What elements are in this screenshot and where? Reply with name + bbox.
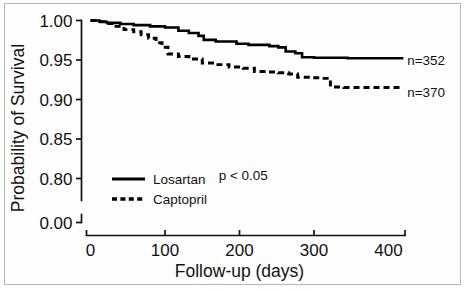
survival-curve-figure: 1.000.950.900.850.800.000100200300400 Lo… (0, 0, 465, 291)
axes-group: 1.000.950.900.850.800.000100200300400 (39, 12, 405, 260)
x-tick-label: 300 (300, 241, 328, 260)
kaplan-meier-plot: 1.000.950.900.850.800.000100200300400 Lo… (0, 0, 465, 291)
x-tick-label: 200 (225, 241, 253, 260)
y-tick-label: 0.95 (39, 51, 72, 70)
y-tick-label: 1.00 (39, 12, 72, 31)
y-tick-label: 0.90 (39, 91, 72, 110)
annotation-p-value: p < 0.05 (219, 168, 268, 183)
survival-curve-captopril (91, 21, 404, 88)
x-tick-label: 100 (151, 241, 179, 260)
x-axis-title: Follow-up (days) (175, 261, 304, 281)
survival-curves-group (91, 21, 404, 88)
x-tick-label: 400 (374, 241, 402, 260)
y-axis-title: Probability of Survival (8, 44, 28, 212)
y-tick-label: 0.85 (39, 130, 72, 149)
y-tick-label: 0.00 (39, 214, 72, 233)
chart-annotations: p < 0.05n=352n=370 (219, 53, 445, 183)
x-tick-label: 0 (86, 241, 95, 260)
legend-label-captopril: Captopril (153, 192, 207, 207)
legend-label-losartan: Losartan (153, 172, 206, 187)
annotation-n-captopril: n=370 (407, 85, 445, 100)
chart-legend: LosartanCaptopril (112, 172, 207, 207)
y-tick-label: 0.80 (39, 170, 72, 189)
survival-curve-losartan (91, 21, 404, 59)
annotation-n-losartan: n=352 (407, 53, 445, 68)
